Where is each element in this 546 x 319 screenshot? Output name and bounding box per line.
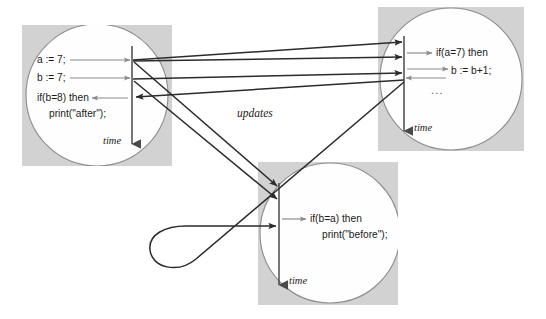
updates-label: updates: [237, 107, 273, 120]
process-left-line-3: print("after");: [49, 108, 106, 119]
process-bottom: if(b=a) then print("before"); time: [258, 162, 400, 305]
process-left-line-2: if(b=8) then: [37, 92, 89, 103]
process-top-right-line-1: b := b+1;: [451, 65, 491, 76]
process-left: a := 7; b := 7; if(b=8) then print("afte…: [22, 24, 172, 166]
process-top-right-circle: [380, 8, 522, 150]
process-bottom-time-label: time: [289, 275, 307, 286]
message-arrow-left-to-right-3: [133, 73, 402, 79]
process-left-line-0: a := 7;: [37, 54, 66, 65]
process-top-right: if(a=7) then b := b+1; ... time: [378, 7, 524, 151]
process-bottom-line-1: print("before");: [322, 229, 388, 240]
process-top-right-time-label: time: [414, 122, 432, 133]
process-left-time-label: time: [103, 135, 121, 146]
message-arrow-right-to-left: [136, 80, 404, 97]
diagram-canvas: a := 7; b := 7; if(b=8) then print("afte…: [0, 0, 546, 319]
process-top-right-line-0: if(a=7) then: [436, 47, 488, 58]
process-bottom-line-0: if(b=a) then: [310, 213, 362, 224]
distributed-process-diagram: a := 7; b := 7; if(b=8) then print("afte…: [0, 0, 546, 319]
process-left-line-1: b := 7;: [37, 72, 66, 83]
process-top-right-line-2: ...: [431, 84, 444, 96]
